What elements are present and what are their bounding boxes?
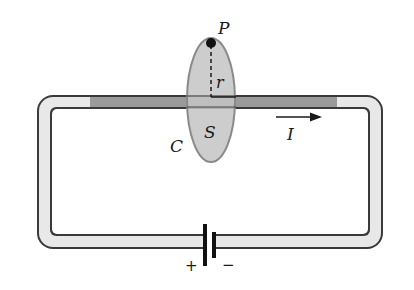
label-i: I — [286, 124, 294, 144]
label-c: C — [170, 136, 183, 156]
surface-s — [187, 38, 235, 162]
label-battery-minus: − — [222, 256, 235, 274]
label-battery-plus: + — [185, 257, 198, 275]
circuit-diagram: P r S C I + − — [0, 0, 414, 290]
point-p-dot — [206, 38, 216, 48]
label-r: r — [216, 73, 225, 92]
label-p: P — [217, 18, 230, 38]
label-s: S — [204, 122, 216, 142]
